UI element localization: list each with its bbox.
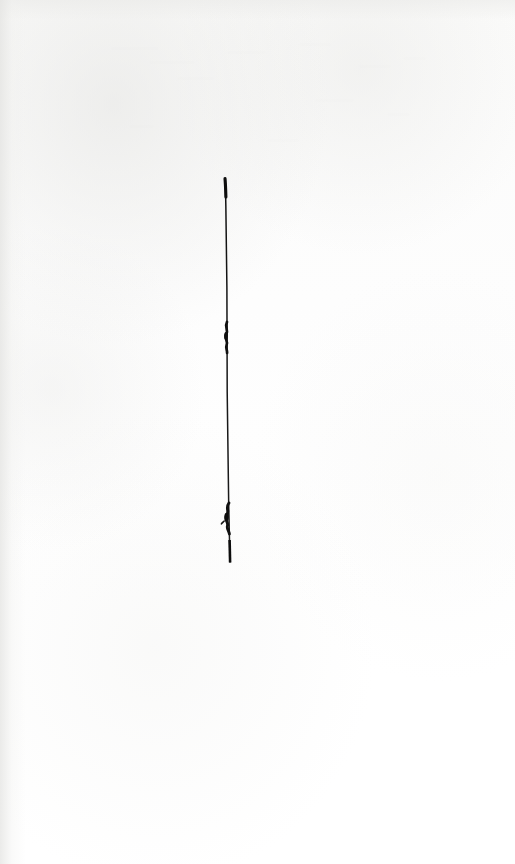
ink-stroke-layer — [0, 0, 515, 864]
lower-ink-blob-core — [224, 513, 228, 521]
scanned-page: — —— ——————— ———— —————— ——— ———————————… — [0, 0, 515, 864]
upper-ink-blob-core — [224, 332, 228, 340]
ink-top-tip — [225, 179, 226, 198]
lower-ink-blob-whisker — [221, 521, 224, 524]
vertical-ink-stroke-svg — [0, 0, 515, 864]
ink-bottom-tail — [230, 540, 231, 563]
